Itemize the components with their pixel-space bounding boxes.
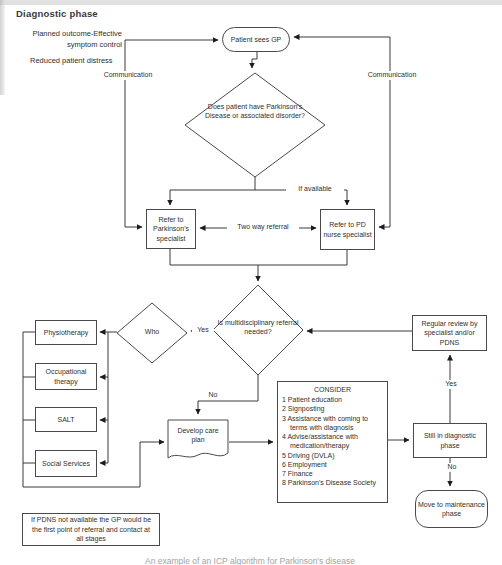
node-develop-care-plan-label: Develop care plan — [170, 426, 226, 445]
consider-item: 4 Advise/assistance with medication/ther… — [282, 432, 383, 450]
node-social-services-label: Social Services — [42, 459, 90, 468]
page-title: Diagnostic phase — [16, 8, 98, 19]
edge-label-two-way-referral: Two way referral — [227, 223, 299, 232]
node-regular-review-label: Regular review by specialist and/or PDNS — [415, 319, 484, 346]
node-physiotherapy: Physiotherapy — [35, 320, 97, 345]
node-occupational-therapy-label: Occupational therapy — [38, 367, 94, 385]
node-who-label: Who — [132, 328, 172, 337]
edge-specialist-down — [170, 249, 347, 265]
edge-label-yes-review: Yes — [438, 380, 464, 389]
edge-gp-to-question — [252, 52, 257, 68]
edge-communication-left — [125, 40, 142, 227]
communication-left-label: Communication — [92, 71, 164, 80]
decision-pd-question — [185, 73, 325, 177]
edge-label-no-care-plan: No — [202, 391, 224, 400]
consider-item: 8 Parkinson's Disease Society — [282, 478, 383, 487]
node-refer-specialist-label: Refer to Parkinson's specialist — [149, 215, 193, 242]
node-regular-review: Regular review by specialist and/or PDNS — [412, 315, 487, 351]
planned-outcome-line2: symptom control — [16, 39, 122, 50]
pdns-note: If PDNS not available the GP would be th… — [22, 513, 160, 546]
node-multidisciplinary-label: Is multidisciplinary referral needed? — [214, 319, 302, 337]
consider-item: 5 Driving (DVLA) — [282, 451, 383, 460]
node-pd-question-label: Does patient have Parkinson's Disease or… — [198, 103, 312, 121]
edge-label-if-available: If available — [286, 185, 344, 194]
pdns-note-text: If PDNS not available the GP would be th… — [29, 515, 153, 544]
node-occupational-therapy: Occupational therapy — [35, 363, 97, 390]
figure-caption: An example of an ICP algorithm for Parki… — [60, 556, 440, 565]
node-salt-label: SALT — [58, 415, 75, 424]
node-physiotherapy-label: Physiotherapy — [44, 328, 88, 337]
planned-outcome-label: Planned outcome-Effective symptom contro… — [16, 28, 122, 51]
edge-label-no-maintenance: No — [441, 463, 463, 472]
consider-item: 6 Employment — [282, 460, 383, 469]
consider-item: 7 Finance — [282, 469, 383, 478]
consider-item: 1 Patient education — [282, 395, 383, 404]
node-refer-specialist: Refer to Parkinson's specialist — [146, 209, 196, 249]
node-still-in-diagnostic: Still in diagnostic phase — [413, 423, 487, 458]
node-refer-pd-nurse-label: Refer to PD nurse specialist — [323, 220, 372, 238]
node-patient-sees-gp: Patient sees GP — [222, 27, 290, 52]
communication-right-label: Communication — [356, 71, 428, 80]
node-move-to-maintenance-label: Move to maintenance phase — [418, 500, 485, 518]
node-refer-pd-nurse: Refer to PD nurse specialist — [320, 209, 375, 250]
node-move-to-maintenance: Move to maintenance phase — [415, 490, 488, 528]
node-social-services: Social Services — [35, 450, 97, 477]
connector-layer — [0, 0, 502, 565]
flowchart-diagnostic-phase: Diagnostic phase Planned outcome-Effecti… — [0, 0, 502, 565]
consider-title: CONSIDER — [282, 385, 383, 394]
planned-outcome-line1: Planned outcome-Effective — [16, 28, 122, 39]
node-salt: SALT — [35, 407, 97, 432]
node-patient-sees-gp-label: Patient sees GP — [231, 35, 282, 44]
consider-item: 3 Assistance with coming to terms with d… — [282, 414, 383, 432]
consider-item: 2 Signposting — [282, 404, 383, 413]
node-still-in-diagnostic-label: Still in diagnostic phase — [416, 431, 484, 449]
edge-label-yes-who: Yes — [192, 326, 214, 335]
node-consider: CONSIDER 1 Patient education 2 Signposti… — [277, 381, 388, 503]
edge-communication-right-down — [379, 37, 390, 227]
reduced-distress-label: Reduced patient distress — [30, 56, 113, 65]
